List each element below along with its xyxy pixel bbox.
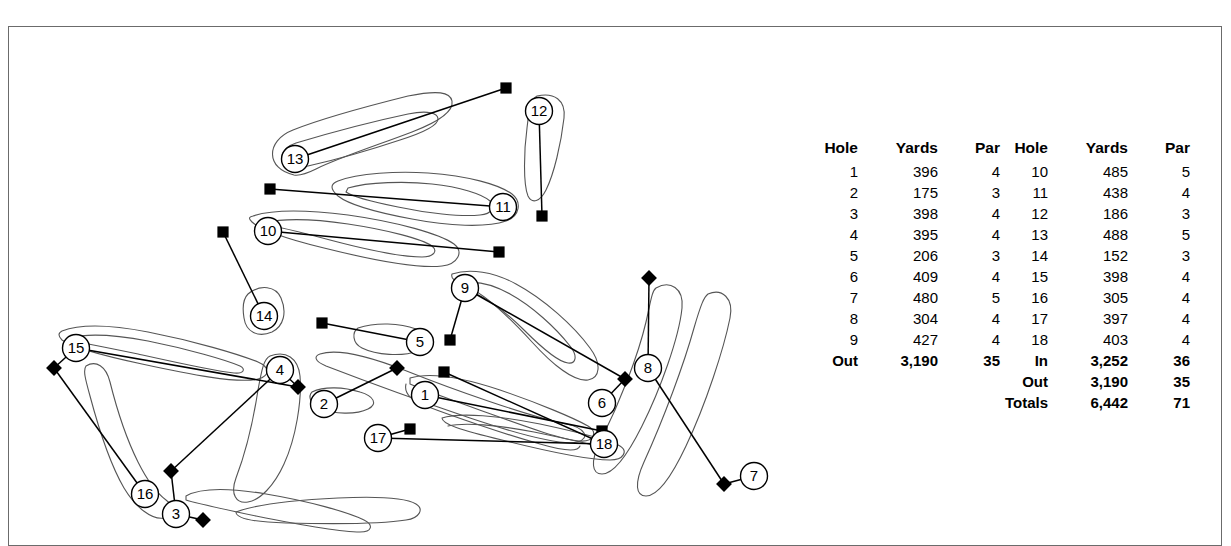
summary-row: In3,25236 (996, 350, 1190, 371)
table-row: 104855 (996, 161, 1190, 182)
cell-par: 3 (1128, 203, 1190, 224)
hole-number-label: 11 (495, 198, 511, 215)
cell-yards: 304 (858, 308, 938, 329)
cell-hole: 13 (996, 224, 1048, 245)
cell-par: 35 (938, 350, 1000, 371)
front-nine-rows: 1396421753339844395452063640947480583044… (806, 161, 1000, 371)
green-marker-hole-18: 18 (591, 431, 618, 458)
hole-number-label: 4 (276, 361, 284, 378)
green-marker-hole-13: 13 (282, 146, 309, 173)
table-row: 13964 (806, 161, 1000, 182)
table-header-row: Hole Yards Par (996, 140, 1190, 161)
cell-yards: 398 (1048, 266, 1128, 287)
table-row: 43954 (806, 224, 1000, 245)
hole-number-label: 5 (416, 333, 424, 350)
cell-par: 4 (938, 308, 1000, 329)
cell-hole: 11 (996, 182, 1048, 203)
header-par: Par (1128, 140, 1190, 161)
hole-number-label: 7 (750, 467, 758, 484)
cell-yards: 206 (858, 245, 938, 266)
hole-number-label: 12 (531, 102, 548, 119)
cell-hole: 9 (806, 329, 858, 350)
header-hole: Hole (806, 140, 858, 161)
cell-hole: 7 (806, 287, 858, 308)
tee-marker-16 (195, 512, 211, 528)
green-marker-hole-7: 7 (741, 463, 768, 490)
back-nine-rows: 1048551143841218631348851415231539841630… (996, 161, 1190, 413)
green-marker-hole-4: 4 (267, 357, 294, 384)
cell-hole: 16 (996, 287, 1048, 308)
scorecard-back-nine: Hole Yards Par 1048551143841218631348851… (996, 140, 1190, 413)
cell-yards: 488 (1048, 224, 1128, 245)
cell-yards: 396 (858, 161, 938, 182)
cell-yards: 152 (1048, 245, 1128, 266)
green-marker-hole-15: 15 (63, 335, 90, 362)
cell-yards: 397 (1048, 308, 1128, 329)
hole-number-label: 18 (596, 435, 613, 452)
cell-hole: 15 (996, 266, 1048, 287)
cell-par: 4 (1128, 266, 1190, 287)
header-par: Par (938, 140, 1000, 161)
green-marker-hole-12: 12 (526, 98, 553, 125)
table-row: 21753 (806, 182, 1000, 203)
table-row: 163054 (996, 287, 1190, 308)
cell-hole: 3 (806, 203, 858, 224)
cell-par: 4 (938, 266, 1000, 287)
table-row: 52063 (806, 245, 1000, 266)
table-row: 173974 (996, 308, 1190, 329)
cell-par: 4 (938, 203, 1000, 224)
table-row: 94274 (806, 329, 1000, 350)
cell-yards: 480 (858, 287, 938, 308)
cell-par: 5 (938, 287, 1000, 308)
cell-hole: 6 (806, 266, 858, 287)
table-row: 134885 (996, 224, 1190, 245)
cell-par: 4 (938, 161, 1000, 182)
header-yards: Yards (1048, 140, 1128, 161)
table-row: 184034 (996, 329, 1190, 350)
green-marker-hole-1: 1 (412, 382, 439, 409)
cell-par: 3 (938, 245, 1000, 266)
green-marker-hole-16: 16 (132, 481, 159, 508)
green-marker-hole-11: 11 (490, 194, 517, 221)
cell-hole: 17 (996, 308, 1048, 329)
table-header-row: Hole Yards Par (806, 140, 1000, 161)
hole-number-label: 6 (598, 394, 606, 411)
green-marker-hole-5: 5 (407, 329, 434, 356)
green-marker-hole-6: 6 (589, 390, 616, 417)
tee-marker-8 (641, 270, 657, 286)
tee-marker-18 (438, 366, 449, 377)
cell-hole: 14 (996, 245, 1048, 266)
cell-par: 4 (1128, 287, 1190, 308)
table-row: 74805 (806, 287, 1000, 308)
green-marker-hole-8: 8 (635, 355, 662, 382)
hole-number-label: 17 (370, 429, 387, 446)
tee-marker-12 (536, 210, 547, 221)
cell-hole: 10 (996, 161, 1048, 182)
tee-marker-14 (217, 226, 228, 237)
cell-hole: Out (806, 350, 858, 371)
table-row: 114384 (996, 182, 1190, 203)
hole-number-label: 1 (421, 386, 429, 403)
scorecard: Hole Yards Par 1396421753339844395452063… (806, 140, 1206, 430)
hole-number-label: 3 (172, 505, 180, 522)
cell-par: 5 (1128, 161, 1190, 182)
cell-yards: 409 (858, 266, 938, 287)
tee-marker-13 (500, 82, 511, 93)
green-marker-hole-14: 14 (251, 303, 278, 330)
header-yards: Yards (858, 140, 938, 161)
cell-par: 5 (1128, 224, 1190, 245)
cell-yards: 6,442 (1048, 392, 1128, 413)
cell-yards: 438 (1048, 182, 1128, 203)
cell-hole: 12 (996, 203, 1048, 224)
cell-yards: 3,252 (1048, 350, 1128, 371)
tee-marker-2 (389, 360, 405, 376)
hole-number-label: 13 (287, 150, 304, 167)
summary-row: Out3,19035 (996, 371, 1190, 392)
cell-par: 4 (938, 329, 1000, 350)
green-marker-hole-3: 3 (163, 501, 190, 528)
cell-yards: 427 (858, 329, 938, 350)
cell-yards: 305 (1048, 287, 1128, 308)
hole-number-label: 8 (644, 359, 652, 376)
cell-par: 71 (1128, 392, 1190, 413)
